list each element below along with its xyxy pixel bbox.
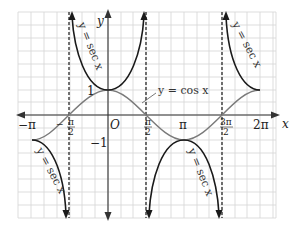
y-axis-label: y <box>96 14 104 28</box>
tick-two-pi: 2π <box>253 118 269 132</box>
cos-label-pointer <box>142 93 156 103</box>
svg-text:π: π <box>145 117 151 127</box>
svg-text:2: 2 <box>68 127 74 137</box>
svg-text:2: 2 <box>223 127 229 137</box>
tick-neg-half-pi: − π 2 <box>56 117 75 137</box>
origin-label: O <box>110 118 120 132</box>
x-axis-label: x <box>282 117 289 131</box>
svg-text:−: − <box>56 119 64 129</box>
tick-y-one: 1 <box>87 84 95 98</box>
svg-text:π: π <box>68 117 74 127</box>
y-axis-arrow-down-icon <box>105 212 112 221</box>
cos-curve-label: y = cos x <box>157 84 209 97</box>
graph-sec-cos: y x O −π π 2π − π 2 π 2 3π 2 1 −1 y = co… <box>0 0 296 230</box>
x-axis-arrow-right-icon <box>271 112 280 119</box>
tick-pi: π <box>179 118 187 132</box>
tick-half-pi: π 2 <box>144 117 152 137</box>
tick-neg-pi: −π <box>18 118 36 132</box>
tick-y-neg-one: −1 <box>90 136 108 150</box>
svg-text:3π: 3π <box>220 117 232 127</box>
y-axis-arrow-up-icon <box>105 9 112 18</box>
svg-text:2: 2 <box>145 127 151 137</box>
